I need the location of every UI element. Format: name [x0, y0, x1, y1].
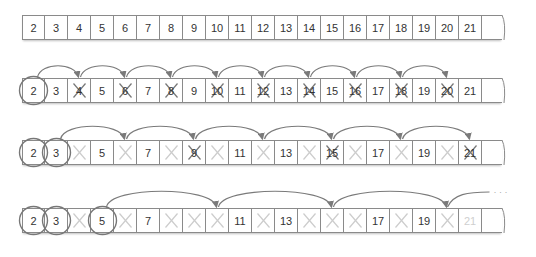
- number-label: 14: [303, 85, 315, 97]
- number-cell: 19: [413, 15, 436, 40]
- number-cell: 13: [275, 208, 298, 233]
- number-row-step-2: 23579111315171921: [22, 140, 502, 165]
- number-cell: [206, 140, 229, 165]
- skip-arc-arrow: [196, 126, 263, 139]
- number-label: 2: [30, 215, 36, 227]
- torn-edge: [502, 15, 505, 40]
- number-cell: 6: [114, 15, 137, 40]
- number-label: 5: [99, 85, 105, 97]
- number-label: 7: [145, 85, 151, 97]
- number-cell: 14: [298, 78, 321, 103]
- number-cell: 9: [183, 140, 206, 165]
- number-label: 8: [168, 85, 174, 97]
- number-cell: [436, 208, 459, 233]
- number-cell: 10: [206, 15, 229, 40]
- number-cell: 5: [91, 208, 114, 233]
- number-label: 18: [395, 22, 407, 34]
- number-label: 16: [349, 22, 361, 34]
- number-label: 17: [372, 215, 384, 227]
- skip-arc-arrow: [403, 66, 447, 77]
- number-label: 9: [191, 85, 197, 97]
- number-label: 7: [145, 215, 151, 227]
- number-label: 14: [303, 22, 315, 34]
- number-label: 3: [53, 147, 59, 159]
- number-cell: 12: [252, 78, 275, 103]
- number-cell: [344, 208, 367, 233]
- number-label: 20: [441, 85, 453, 97]
- torn-edge: [502, 78, 505, 103]
- number-label: 21: [464, 85, 476, 97]
- number-cell: 9: [183, 78, 206, 103]
- number-label: 6: [122, 85, 128, 97]
- number-cell: 7: [137, 208, 160, 233]
- number-cell: [344, 140, 367, 165]
- number-label: 19: [418, 147, 430, 159]
- number-cell: [321, 208, 344, 233]
- number-label: 9: [191, 147, 197, 159]
- number-cell: 4: [68, 15, 91, 40]
- number-label: 10: [211, 22, 223, 34]
- number-cell: 3: [45, 78, 68, 103]
- number-label: 11: [234, 147, 245, 159]
- number-label: 19: [418, 85, 430, 97]
- number-label: 21: [464, 215, 476, 227]
- number-cell: 21: [459, 140, 482, 165]
- torn-edge: [502, 208, 505, 233]
- number-cell: [160, 208, 183, 233]
- number-cell: 13: [275, 140, 298, 165]
- number-label: 11: [234, 22, 245, 34]
- number-cell: [68, 208, 91, 233]
- number-cell: 4: [68, 78, 91, 103]
- number-label: 15: [326, 147, 338, 159]
- number-cell: 13: [275, 78, 298, 103]
- number-cell: 8: [160, 78, 183, 103]
- number-cell: 11: [229, 208, 252, 233]
- number-label: 2: [30, 22, 36, 34]
- number-cell: [160, 140, 183, 165]
- number-cell: 8: [160, 15, 183, 40]
- number-cell: 21: [459, 208, 482, 233]
- number-label: 13: [280, 85, 292, 97]
- number-cell: 11: [229, 15, 252, 40]
- skip-arc-arrow: [334, 191, 447, 207]
- number-label: 10: [211, 85, 223, 97]
- number-label: 12: [257, 85, 269, 97]
- skip-arc-arrow: [265, 126, 332, 139]
- number-cell: 17: [367, 78, 390, 103]
- number-cell: 6: [114, 78, 137, 103]
- number-cell: [114, 208, 137, 233]
- number-label: 4: [76, 85, 82, 97]
- number-label: 7: [145, 147, 151, 159]
- skip-arc-arrow: [127, 66, 171, 77]
- number-cell: 11: [229, 140, 252, 165]
- number-row-step-1: 23456789101112131415161718192021: [22, 78, 502, 103]
- number-cell: 19: [413, 208, 436, 233]
- number-cell: 18: [390, 15, 413, 40]
- number-label: 16: [349, 85, 361, 97]
- number-cell: [206, 208, 229, 233]
- number-cell: [390, 208, 413, 233]
- number-label: 21: [464, 147, 476, 159]
- number-label: 3: [53, 22, 59, 34]
- number-cell: 13: [275, 15, 298, 40]
- continuation-arc: [448, 192, 490, 207]
- skip-arc-arrow: [265, 66, 309, 77]
- continuation-cell: [482, 140, 502, 165]
- number-label: 2: [30, 147, 36, 159]
- number-label: 5: [99, 147, 105, 159]
- number-cell: [114, 140, 137, 165]
- number-label: 12: [257, 22, 269, 34]
- number-label: 9: [191, 22, 197, 34]
- number-cell: 17: [367, 140, 390, 165]
- number-cell: 7: [137, 140, 160, 165]
- number-cell: [68, 140, 91, 165]
- number-label: 21: [464, 22, 476, 34]
- skip-arc-arrow: [219, 66, 263, 77]
- number-cell: 2: [22, 140, 45, 165]
- skip-arc-arrow: [311, 66, 355, 77]
- number-cell: 2: [22, 78, 45, 103]
- continuation-cell: [482, 208, 502, 233]
- number-label: 18: [395, 85, 407, 97]
- skip-arc-arrow: [173, 66, 217, 77]
- number-cell: 3: [45, 208, 68, 233]
